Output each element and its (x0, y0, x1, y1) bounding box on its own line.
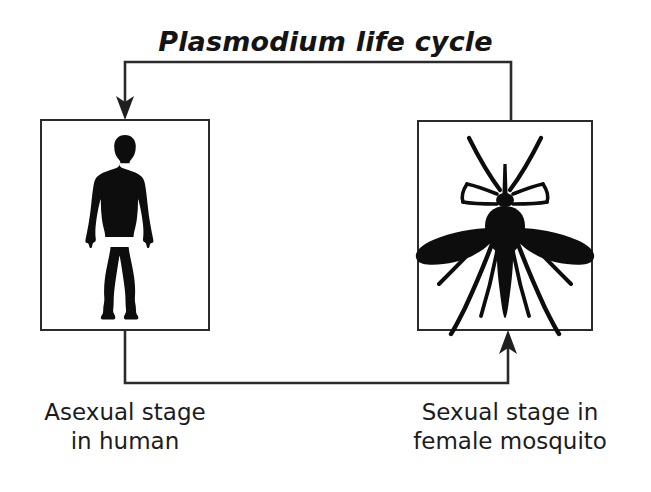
mosquito-stage-caption: Sexual stage in female mosquito (390, 398, 630, 456)
plasmodium-life-cycle-diagram: Plasmodium life cycle (0, 0, 651, 492)
human-caption-line-1: Asexual stage (10, 398, 240, 427)
mosquito-caption-line-1: Sexual stage in (390, 398, 630, 427)
mosquito-stage-box (417, 120, 593, 331)
human-caption-line-2: in human (10, 427, 240, 456)
connector-human-to-mosquito (125, 331, 508, 383)
mosquito-caption-line-2: female mosquito (390, 427, 630, 456)
human-stage-caption: Asexual stage in human (10, 398, 240, 456)
connector-mosquito-to-human (125, 62, 511, 120)
human-stage-box (40, 119, 210, 331)
